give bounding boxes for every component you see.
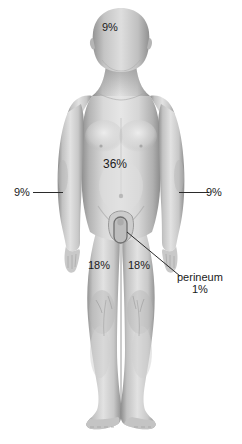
left-leg-percentage-label: 18% (88, 259, 110, 271)
perineum-label-group: perineum 1% (177, 271, 223, 295)
right-leg-percentage-label: 18% (128, 259, 150, 271)
trunk-percentage-label: 36% (103, 158, 127, 170)
human-figure-illustration (0, 0, 242, 444)
head-percentage-label: 9% (102, 21, 118, 33)
perineum-percentage-label: 1% (177, 283, 223, 295)
perineum-name-label: perineum (177, 271, 223, 283)
left-arm-percentage-label: 9% (14, 186, 30, 198)
right-arm-leader-line (179, 192, 209, 193)
left-arm-leader-line (33, 192, 63, 193)
right-arm-percentage-label: 9% (206, 186, 222, 198)
body-diagram: 9% 36% 9% 9% 18% 18% perineum 1% (0, 0, 242, 444)
